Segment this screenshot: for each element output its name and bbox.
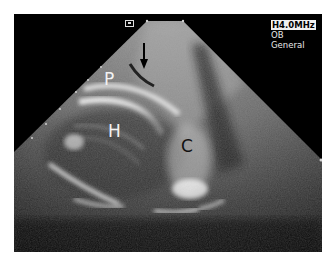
preset-readout: OB (271, 30, 316, 40)
frequency-readout: H4.0MHz (271, 20, 316, 30)
scan-info-panel: H4.0MHz OB General (271, 20, 316, 50)
mode-readout: General (271, 40, 316, 50)
label-placenta: P (104, 71, 114, 88)
probe-orientation-marker (125, 20, 134, 27)
label-head: H (108, 123, 121, 140)
label-c: C (181, 138, 193, 155)
